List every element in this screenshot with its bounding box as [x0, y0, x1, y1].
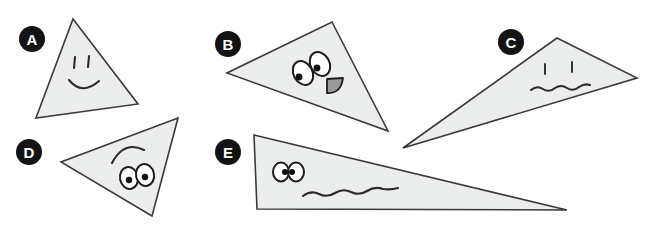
- pupil-right-b: [314, 65, 321, 72]
- pupil-right-e: [289, 169, 295, 175]
- pupil-right-d: [142, 174, 148, 180]
- eye-left-a: [74, 57, 75, 68]
- label-text-e: E: [223, 144, 233, 161]
- label-badge-d[interactable]: D: [16, 139, 42, 165]
- worksheet-canvas: A B: [0, 0, 654, 225]
- label-badge-a[interactable]: A: [19, 26, 45, 52]
- label-text-c: C: [506, 34, 517, 51]
- shape-group-b[interactable]: B: [215, 22, 388, 131]
- label-text-a: A: [27, 31, 38, 48]
- label-badge-b[interactable]: B: [215, 31, 241, 57]
- shape-group-c[interactable]: C: [403, 29, 637, 148]
- label-text-d: D: [24, 144, 35, 161]
- pupil-left-b: [296, 74, 303, 81]
- label-badge-c[interactable]: C: [498, 29, 524, 55]
- shape-group-e[interactable]: E: [215, 135, 567, 210]
- triangle-a[interactable]: [36, 19, 138, 118]
- shapes-figure: A B: [0, 0, 654, 225]
- triangle-c[interactable]: [403, 38, 637, 148]
- eye-right-a: [88, 56, 89, 67]
- shape-group-d[interactable]: D: [16, 118, 178, 216]
- pupil-left-d: [126, 177, 132, 183]
- pupil-left-e: [282, 169, 288, 175]
- label-text-b: B: [223, 36, 234, 53]
- triangle-d[interactable]: [61, 118, 178, 216]
- shape-group-a[interactable]: A: [19, 19, 138, 118]
- label-badge-e[interactable]: E: [215, 139, 241, 165]
